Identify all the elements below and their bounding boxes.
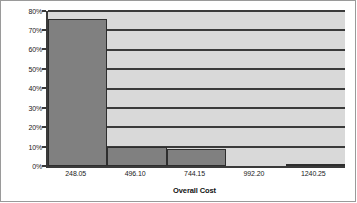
- bar: [286, 164, 345, 166]
- bar-cell: [286, 11, 345, 166]
- y-axis: 80% 70% 60% 50% 40% 30% 20% 10%: [1, 1, 46, 168]
- bar-cell: [167, 11, 226, 166]
- bar-cell: [226, 11, 285, 166]
- bar: [107, 147, 166, 166]
- chart-frame: 80% 70% 60% 50% 40% 30% 20% 10%: [0, 0, 356, 202]
- bar-cell: [107, 11, 166, 166]
- y-axis-tick: 70%: [1, 24, 46, 36]
- y-axis-tick: 80%: [1, 5, 46, 17]
- x-axis-tick-label: 744.15: [165, 170, 224, 177]
- y-axis-tick: 0%: [1, 160, 46, 172]
- y-axis-tick: 10%: [1, 141, 46, 153]
- bar-cell: [48, 11, 107, 166]
- y-axis-tick: 30%: [1, 102, 46, 114]
- y-axis-tick: 20%: [1, 121, 46, 133]
- y-axis-tick: 60%: [1, 43, 46, 55]
- x-axis-tick-label: 496.10: [105, 170, 164, 177]
- x-axis-title: Overall Cost: [46, 186, 343, 195]
- x-axis-tick-label: 992.20: [224, 170, 283, 177]
- bar: [48, 19, 107, 166]
- y-axis-tick: 50%: [1, 63, 46, 75]
- plot-area: [46, 11, 345, 168]
- bar-series: [48, 11, 345, 166]
- y-axis-tick: 40%: [1, 82, 46, 94]
- x-axis-tick-label: 248.05: [46, 170, 105, 177]
- bar: [167, 149, 226, 166]
- x-axis: 248.05496.10744.15992.201240.25: [46, 170, 343, 177]
- x-axis-tick-label: 1240.25: [284, 170, 343, 177]
